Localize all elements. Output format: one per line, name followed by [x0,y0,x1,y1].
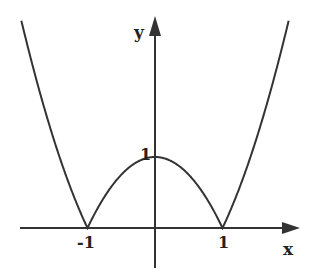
y-axis-arrow-icon [149,16,161,36]
x-axis-label: x [283,239,294,259]
x-axis [20,222,300,234]
tick-label-x-pos1: 1 [218,233,229,252]
tick-label-x-neg1: -1 [77,233,95,252]
y-axis [149,16,161,268]
x-axis-arrow-icon [282,222,300,234]
tick-label-y-pos1: 1 [140,145,151,164]
function-graph: y x -1 1 1 [0,0,309,273]
y-axis-label: y [133,22,145,42]
